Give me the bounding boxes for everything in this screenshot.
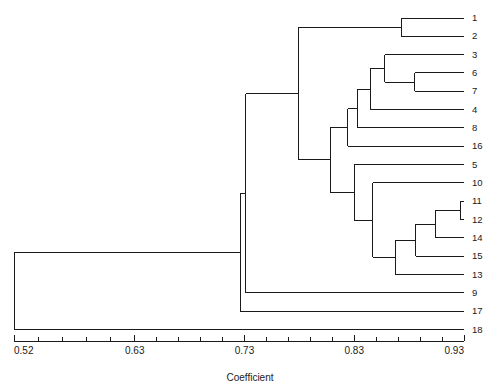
leaf-label-17: 17 (472, 305, 483, 316)
leaf-label-10: 10 (472, 177, 483, 188)
axis-tick-label: 0.52 (14, 345, 34, 356)
dendrogram-branches (14, 18, 464, 330)
leaf-label-13: 13 (472, 269, 483, 280)
dendrogram-figure: 123674816510111214151391718 0.520.630.73… (0, 0, 501, 387)
leaf-label-9: 9 (472, 287, 477, 298)
leaf-label-14: 14 (472, 232, 483, 243)
coefficient-axis (14, 335, 464, 341)
figure-caption (0, 378, 501, 387)
leaf-label-5: 5 (472, 159, 477, 170)
leaf-label-2: 2 (472, 30, 477, 41)
leaf-label-11: 11 (472, 195, 482, 206)
leaf-label-3: 3 (472, 49, 477, 60)
leaf-label-15: 15 (472, 250, 483, 261)
leaf-label-1: 1 (472, 12, 477, 23)
dendrogram-leaf-labels: 123674816510111214151391718 (472, 12, 483, 335)
leaf-label-7: 7 (472, 85, 477, 96)
axis-tick-label: 0.63 (125, 345, 145, 356)
leaf-label-6: 6 (472, 67, 477, 78)
axis-tick-label: 0.83 (345, 345, 365, 356)
leaf-label-4: 4 (472, 104, 477, 115)
leaf-label-18: 18 (472, 324, 483, 335)
coefficient-axis-tick-labels: 0.520.630.730.830.93 (14, 345, 464, 356)
axis-tick-label: 0.93 (445, 345, 465, 356)
dendrogram-plot: 123674816510111214151391718 0.520.630.73… (0, 0, 501, 387)
leaf-label-16: 16 (472, 140, 483, 151)
leaf-label-8: 8 (472, 122, 477, 133)
axis-tick-label: 0.73 (235, 345, 255, 356)
leaf-label-12: 12 (472, 214, 483, 225)
